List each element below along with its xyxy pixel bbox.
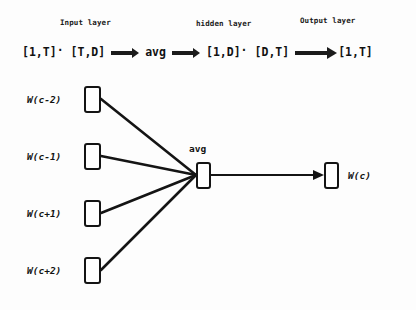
output-node-label: W(c) bbox=[348, 170, 371, 181]
input-node-2-label: W(c-1) bbox=[27, 151, 61, 162]
arrowhead-to-output-icon bbox=[313, 170, 324, 180]
input-node-4-label: W(c+2) bbox=[27, 265, 61, 276]
edge-input-1-to-hidden bbox=[101, 99, 196, 175]
input-node-1[interactable] bbox=[84, 86, 101, 113]
hidden-node-avg[interactable] bbox=[196, 162, 211, 189]
input-node-2[interactable] bbox=[84, 143, 101, 170]
edge-input-3-to-hidden bbox=[101, 175, 196, 213]
input-node-1-label: W(c-2) bbox=[27, 94, 61, 105]
diagram-canvas: Input layer hidden layer Output layer [1… bbox=[0, 0, 416, 310]
network-edges bbox=[0, 0, 416, 310]
output-node[interactable] bbox=[324, 162, 339, 189]
input-node-3-label: W(c+1) bbox=[27, 208, 61, 219]
edge-input-2-to-hidden bbox=[101, 156, 196, 175]
hidden-node-caption: avg bbox=[189, 143, 206, 154]
input-node-4[interactable] bbox=[84, 257, 101, 284]
input-node-3[interactable] bbox=[84, 200, 101, 227]
edge-input-4-to-hidden bbox=[101, 175, 196, 270]
